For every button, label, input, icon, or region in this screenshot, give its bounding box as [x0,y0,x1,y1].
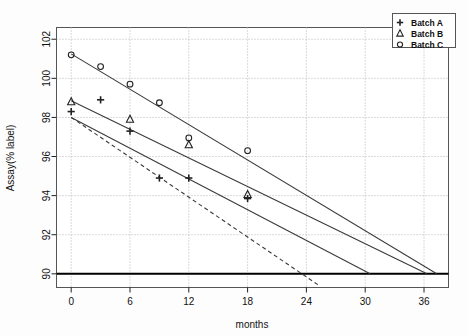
chart-legend[interactable]: Batch ABatch BBatch C [393,14,456,50]
y-tick-label: 90 [41,268,52,280]
y-tick-label: 96 [41,151,52,163]
y-tick-labels: 9092949698100102 [41,30,52,279]
x-tick-label: 30 [360,296,372,307]
x-tick-label: 36 [418,296,430,307]
y-axis-title: Assay(% label) [5,125,16,192]
chart-canvas: 061218243036 9092949698100102 months Ass… [0,0,468,336]
x-tick-label: 12 [183,296,195,307]
x-tick-label: 18 [242,296,254,307]
x-tick-label: 24 [301,296,313,307]
y-tick-label: 92 [41,229,52,241]
plot-frame [57,28,449,288]
y-tick-label: 102 [41,30,52,47]
y-tick-label: 98 [41,111,52,123]
x-tick-labels: 061218243036 [68,296,430,307]
y-tick-label: 94 [41,190,52,202]
y-tick-label: 100 [41,70,52,87]
x-axis-title: months [236,319,269,330]
x-tick-label: 0 [68,296,74,307]
stability-assay-chart: 061218243036 9092949698100102 months Ass… [0,0,468,336]
legend-item-label: Batch C [411,40,443,50]
legend-item-label: Batch A [411,18,443,28]
x-tick-label: 6 [127,296,133,307]
legend-item-label: Batch B [411,29,443,39]
